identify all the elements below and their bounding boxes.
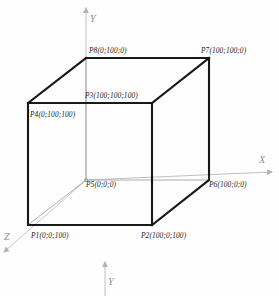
cube-solid-edges xyxy=(28,58,209,225)
cube-geometry-svg xyxy=(0,0,279,296)
vertex-label-P3: P3(100;100;100) xyxy=(85,92,138,99)
cube-diagram-figure: Y X Z Y P1(0;0;100) P2(100;0;100) P3(100… xyxy=(0,0,279,296)
axis-label-y-top: Y xyxy=(90,14,96,24)
axis-label-x: X xyxy=(259,155,265,165)
edge-diag-top-right xyxy=(152,58,209,103)
vertex-label-P7: P7(100;100;0) xyxy=(201,47,246,54)
z-axis-line xyxy=(4,180,86,252)
vertex-label-P4: P4(0;100;100) xyxy=(30,111,75,118)
vertex-label-P6: P6(100;0;0) xyxy=(209,181,247,188)
vertex-label-P8: P8(0;100;0) xyxy=(89,47,127,54)
axis-label-y-bottom: Y xyxy=(108,277,114,287)
edge-diag-bottom-right xyxy=(152,180,209,225)
axis-label-z: Z xyxy=(4,232,10,242)
edge-diag-top-left xyxy=(28,58,86,103)
edge-diag-bottom-left xyxy=(28,180,86,225)
x-axis-line xyxy=(86,172,272,180)
vertex-label-P2: P2(100;0;100) xyxy=(141,232,186,239)
vertex-label-P1: P1(0;0;100) xyxy=(31,232,69,239)
vertex-label-P5: P5(0;0;0) xyxy=(86,181,116,188)
